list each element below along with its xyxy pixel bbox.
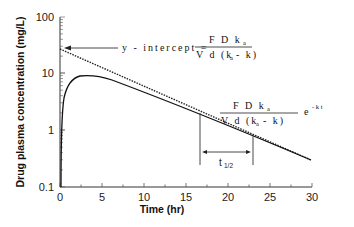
arrow-left-icon — [202, 150, 207, 154]
eq2-denominator-a: V d (k — [221, 115, 258, 127]
x-tick-label: 10 — [138, 191, 150, 203]
y-tick-label: 10 — [42, 67, 54, 79]
x-ticks — [60, 183, 312, 187]
extrapolated-line — [60, 49, 311, 160]
eq2-denominator-sub: a — [256, 120, 259, 127]
x-tick-label: 0 — [57, 191, 63, 203]
x-tick-label: 5 — [99, 191, 105, 203]
eq1-numerator: F D k — [209, 34, 242, 45]
y-tick-label: 1 — [48, 124, 54, 136]
x-tick-label: 25 — [264, 191, 276, 203]
eq2-exp-base: e — [304, 106, 310, 117]
y-tick-label: 0.1 — [39, 181, 54, 193]
concentration-curve — [61, 76, 311, 187]
eq1-numerator-sub: a — [243, 39, 246, 46]
eq1-denominator-b: - k) — [236, 49, 258, 61]
eq2-exponent: - k t — [312, 103, 323, 110]
half-life-label: t — [219, 157, 222, 168]
x-tick-label: 15 — [180, 191, 192, 203]
chart-svg: 100 10 1 0.1 0 5 10 15 20 25 30 Time (hr… — [0, 0, 354, 227]
y-axis-title: Drug plasma concentration (mg/L) — [14, 17, 26, 188]
eq1-denominator-a: V d (k — [196, 49, 233, 61]
x-axis-title: Time (hr) — [140, 203, 185, 215]
x-tick-label: 20 — [222, 191, 234, 203]
arrow-head-icon — [64, 46, 71, 51]
eq1-denominator-sub: a — [230, 54, 233, 61]
eq2-numerator: F D k — [233, 100, 266, 111]
pharmacokinetic-chart: 100 10 1 0.1 0 5 10 15 20 25 30 Time (hr… — [0, 0, 354, 227]
arrow-right-icon — [246, 150, 251, 154]
half-life-sub: 1/2 — [224, 162, 233, 169]
eq2-denominator-b: - k) — [263, 115, 285, 127]
eq2-numerator-sub: a — [267, 105, 270, 112]
x-tick-label: 30 — [306, 191, 318, 203]
y-tick-label: 100 — [36, 11, 54, 23]
